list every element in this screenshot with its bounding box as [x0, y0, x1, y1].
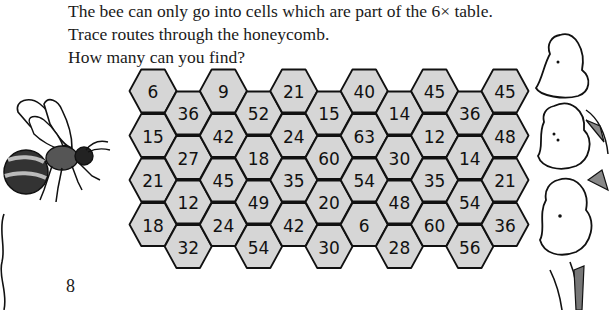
cell-number: 15 — [142, 127, 164, 147]
cell-number: 15 — [318, 104, 340, 124]
cell-number: 48 — [494, 127, 516, 147]
cell-number: 20 — [318, 193, 340, 213]
page-number: 8 — [66, 276, 75, 297]
cell-number: 60 — [424, 216, 446, 236]
flower-icon — [520, 30, 610, 310]
cell-number: 6 — [148, 82, 159, 102]
cell-number: 21 — [494, 171, 516, 191]
cell-number: 54 — [459, 193, 481, 213]
cell-number: 12 — [177, 193, 199, 213]
cell-number: 24 — [213, 216, 235, 236]
honeycomb-grid: 6152118362712329424524521849542124354215… — [0, 0, 610, 310]
cell-number: 56 — [459, 238, 481, 258]
cell-number: 42 — [283, 216, 305, 236]
cell-number: 18 — [142, 216, 164, 236]
cell-number: 49 — [248, 193, 270, 213]
cell-number: 42 — [213, 127, 235, 147]
cell-number: 30 — [389, 149, 411, 169]
cell-number: 35 — [424, 171, 446, 191]
cell-number: 60 — [318, 149, 340, 169]
cell-number: 45 — [494, 82, 516, 102]
cell-number: 52 — [248, 104, 270, 124]
cell-number: 48 — [389, 193, 411, 213]
cell-number: 36 — [459, 104, 481, 124]
cell-number: 36 — [177, 104, 199, 124]
cell-number: 28 — [389, 238, 411, 258]
cell-number: 18 — [248, 149, 270, 169]
cell-number: 63 — [353, 127, 375, 147]
cell-number: 14 — [459, 149, 481, 169]
cell-number: 30 — [318, 238, 340, 258]
cell-number: 9 — [218, 82, 229, 102]
cell-number: 54 — [248, 238, 270, 258]
cell-number: 21 — [142, 171, 164, 191]
cell-number: 27 — [177, 149, 199, 169]
cell-number: 45 — [424, 82, 446, 102]
cell-number: 32 — [177, 238, 199, 258]
cell-number: 21 — [283, 82, 305, 102]
cell-number: 36 — [494, 216, 516, 236]
cell-number: 14 — [389, 104, 411, 124]
cell-number: 54 — [353, 171, 375, 191]
cell-number: 24 — [283, 127, 305, 147]
cell-number: 6 — [359, 216, 370, 236]
cell-number: 35 — [283, 171, 305, 191]
cell-number: 12 — [424, 127, 446, 147]
cell-number: 40 — [353, 82, 375, 102]
cell-number: 45 — [213, 171, 235, 191]
